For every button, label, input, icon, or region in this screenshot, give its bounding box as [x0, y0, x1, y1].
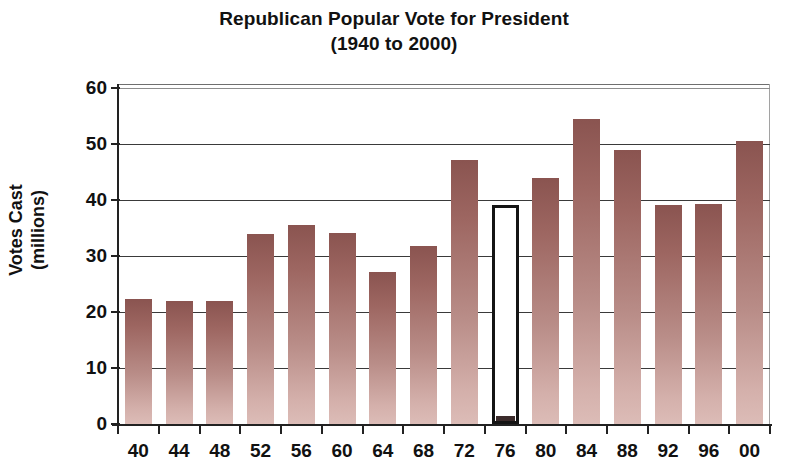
x-axis-label: 52	[250, 440, 271, 461]
y-axis-label: 40	[86, 189, 107, 211]
x-axis-tick	[688, 425, 690, 434]
x-axis-tick	[606, 425, 608, 434]
x-axis-label: 80	[535, 440, 556, 461]
bar	[369, 272, 396, 424]
x-axis-label: 64	[372, 440, 393, 461]
y-axis-title: Votes Cast (millions)	[5, 120, 49, 340]
y-axis-label: 30	[86, 245, 107, 267]
bar	[614, 150, 641, 424]
bar	[736, 141, 763, 424]
bar	[125, 299, 152, 424]
bar	[573, 119, 600, 424]
y-axis-label: 20	[86, 301, 107, 323]
x-axis-label: 68	[413, 440, 434, 461]
x-axis-tick	[117, 425, 119, 434]
y-axis-tick	[111, 311, 120, 313]
y-axis-tick	[111, 199, 120, 201]
bar	[288, 225, 315, 424]
y-axis-tick	[111, 255, 120, 257]
x-axis-label: 96	[698, 440, 719, 461]
x-axis-tick	[362, 425, 364, 434]
chart-title-line-2: (1940 to 2000)	[0, 31, 788, 56]
x-axis-tick	[728, 425, 730, 434]
plot-right-edge	[769, 84, 770, 424]
y-axis-tick	[111, 87, 120, 89]
bar	[655, 205, 682, 424]
x-axis-label: 60	[332, 440, 353, 461]
y-axis-label: 10	[86, 357, 107, 379]
y-axis-label: 50	[86, 133, 107, 155]
x-axis-line	[112, 424, 772, 426]
chart-title: Republican Popular Vote for President (1…	[0, 6, 788, 56]
x-axis-tick	[565, 425, 567, 434]
y-axis-label: 0	[96, 413, 107, 435]
y-axis-tick	[111, 367, 120, 369]
y-axis-label: 60	[86, 77, 107, 99]
x-axis-label: 76	[495, 440, 516, 461]
bar	[166, 301, 193, 424]
plot-area: 0102030405060 40444852566064687276808488…	[118, 88, 770, 424]
gridline	[118, 144, 770, 145]
x-axis-tick	[199, 425, 201, 434]
bar	[206, 301, 233, 424]
bar	[532, 178, 559, 424]
x-axis-label: 88	[617, 440, 638, 461]
x-axis-tick	[443, 425, 445, 434]
x-axis-tick	[321, 425, 323, 434]
x-axis-label: 00	[739, 440, 760, 461]
x-axis-label: 44	[169, 440, 190, 461]
x-axis-label: 40	[128, 440, 149, 461]
x-axis-tick	[769, 425, 771, 434]
x-axis-label: 92	[658, 440, 679, 461]
x-axis-tick	[402, 425, 404, 434]
bar-highlighted	[492, 205, 519, 424]
x-axis-tick	[280, 425, 282, 434]
x-axis-tick	[647, 425, 649, 434]
gridline	[118, 88, 770, 89]
x-axis-label: 84	[576, 440, 597, 461]
x-axis-label: 56	[291, 440, 312, 461]
gridline	[118, 200, 770, 201]
bar	[247, 234, 274, 424]
chart-title-line-1: Republican Popular Vote for President	[219, 8, 569, 29]
bar	[329, 233, 356, 424]
bar	[410, 246, 437, 424]
x-axis-tick	[484, 425, 486, 434]
x-axis-tick	[158, 425, 160, 434]
x-axis-label: 72	[454, 440, 475, 461]
bar	[451, 160, 478, 424]
plot-top-edge	[118, 84, 770, 85]
x-axis-label: 48	[209, 440, 230, 461]
bar	[695, 204, 722, 424]
x-axis-tick	[239, 425, 241, 434]
bar-chart-figure: Republican Popular Vote for President (1…	[0, 0, 788, 461]
x-axis-tick	[525, 425, 527, 434]
y-axis-tick	[111, 143, 120, 145]
